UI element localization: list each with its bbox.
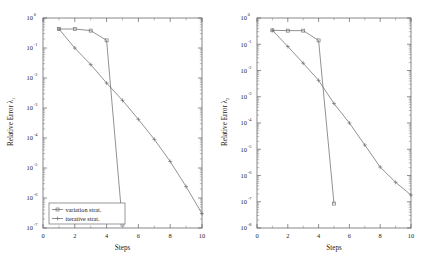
svg-text:10: 10: [27, 14, 33, 21]
chart-panel-lambda2: 10010-110-210-310-410-510-610-710-802468…: [211, 0, 421, 272]
plot-frame: [257, 18, 411, 228]
y-tick-label: 10-1: [27, 42, 38, 51]
series-line-iterative: [59, 29, 202, 214]
svg-text:-4: -4: [248, 117, 252, 122]
y-tick-label: 10-5: [27, 162, 38, 171]
y-tick-label: 10-2: [27, 72, 38, 81]
figure-container: 10010-110-210-310-410-510-610-70246810St…: [0, 0, 421, 272]
svg-text:Relative Error λ: Relative Error λ: [221, 99, 229, 146]
svg-text:10: 10: [241, 146, 247, 153]
y-tick-label: 10-6: [241, 170, 253, 179]
svg-text:10: 10: [27, 44, 33, 51]
x-tick-label: 2: [73, 232, 76, 239]
x-tick-label: 10: [408, 232, 414, 239]
svg-text:10: 10: [27, 164, 33, 171]
svg-text:10: 10: [27, 194, 33, 201]
series-line-iterative: [272, 30, 411, 195]
svg-text:10: 10: [241, 198, 247, 205]
x-tick-label: 8: [169, 232, 172, 239]
x-tick-label: 4: [105, 232, 109, 239]
legend-label: variation strat.: [66, 206, 102, 213]
plot-svg-lambda1: 10010-110-210-310-410-510-610-70246810St…: [0, 0, 211, 272]
series-line-variation: [272, 30, 334, 203]
x-axis-title: Steps: [326, 244, 342, 252]
svg-text:1: 1: [11, 98, 16, 100]
x-tick-label: 6: [137, 232, 140, 239]
x-tick-label: 2: [286, 232, 289, 239]
svg-text:10: 10: [27, 224, 33, 231]
svg-text:-4: -4: [34, 132, 38, 137]
x-axis-title: Steps: [115, 244, 131, 252]
series-line-variation: [59, 29, 123, 225]
y-tick-label: 10-4: [241, 117, 253, 126]
svg-text:10: 10: [241, 14, 247, 21]
y-axis-title: Relative Error λ2: [221, 98, 230, 146]
svg-text:-5: -5: [34, 162, 38, 167]
svg-text:10: 10: [27, 74, 33, 81]
y-tick-label: 100: [27, 12, 36, 21]
x-tick-label: 4: [317, 232, 321, 239]
x-tick-label: 0: [41, 232, 44, 239]
data-point-marker-plus: [200, 212, 204, 216]
x-tick-label: 0: [255, 232, 258, 239]
y-tick-label: 10-5: [241, 144, 252, 153]
y-tick-label: 10-3: [27, 102, 38, 111]
svg-text:Relative Error λ: Relative Error λ: [7, 99, 15, 146]
svg-text:10: 10: [241, 41, 247, 48]
svg-text:10: 10: [241, 67, 247, 74]
y-axis-title: Relative Error λ1: [7, 98, 16, 146]
svg-text:10: 10: [27, 134, 33, 141]
svg-text:-3: -3: [34, 102, 38, 107]
svg-text:-2: -2: [248, 65, 252, 70]
svg-text:10: 10: [241, 119, 247, 126]
svg-text:-7: -7: [248, 196, 252, 201]
y-tick-label: 10-2: [241, 65, 252, 74]
svg-text:-6: -6: [248, 170, 252, 175]
svg-text:-1: -1: [248, 39, 252, 44]
svg-text:-8: -8: [248, 222, 252, 227]
y-tick-label: 10-8: [241, 222, 252, 231]
svg-text:10: 10: [241, 172, 247, 179]
x-tick-label: 6: [348, 232, 351, 239]
svg-text:-5: -5: [248, 144, 252, 149]
svg-text:0: 0: [34, 12, 36, 17]
legend[interactable]: variation strat.iterative strat.: [49, 203, 125, 224]
y-tick-label: 100: [241, 12, 250, 21]
svg-text:10: 10: [241, 224, 247, 231]
y-tick-label: 10-1: [241, 39, 252, 48]
x-tick-label: 8: [379, 232, 382, 239]
legend-label: iterative strat.: [66, 215, 100, 222]
y-tick-label: 10-7: [241, 196, 253, 205]
y-tick-label: 10-6: [27, 192, 39, 201]
svg-text:-2: -2: [34, 72, 38, 77]
y-tick-label: 10-4: [27, 132, 39, 141]
chart-panel-lambda1: 10010-110-210-310-410-510-610-70246810St…: [0, 0, 211, 272]
svg-text:0: 0: [248, 12, 250, 17]
plot-svg-lambda2: 10010-110-210-310-410-510-610-710-802468…: [211, 0, 421, 272]
svg-text:-6: -6: [34, 192, 38, 197]
svg-text:10: 10: [27, 104, 33, 111]
svg-text:-1: -1: [34, 42, 38, 47]
y-tick-label: 10-3: [241, 91, 252, 100]
plot-frame: [43, 18, 202, 228]
data-point-marker-plus: [184, 185, 188, 189]
svg-text:10: 10: [241, 93, 247, 100]
svg-text:-7: -7: [34, 222, 38, 227]
svg-text:-3: -3: [248, 91, 252, 96]
svg-text:2: 2: [225, 98, 230, 100]
y-tick-label: 10-7: [27, 222, 39, 231]
x-tick-label: 10: [199, 232, 205, 239]
